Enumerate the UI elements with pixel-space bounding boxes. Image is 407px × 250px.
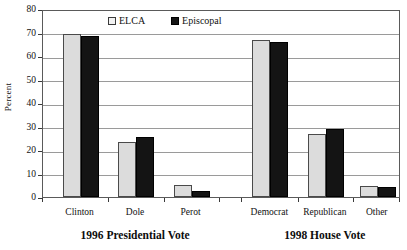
- bar-democrat-episcopal: [270, 42, 288, 197]
- group-title-2: 1998 House Vote: [235, 228, 407, 242]
- x-tick-mark: [298, 198, 299, 202]
- chart-legend: ELCAEpiscopal: [108, 14, 222, 27]
- bars-layer: [43, 11, 399, 197]
- x-tick-mark: [108, 198, 109, 202]
- bar-republican-elca: [308, 134, 326, 197]
- bar-perot-elca: [174, 185, 192, 197]
- y-tick-label: 0: [31, 193, 36, 203]
- x-label-other: Other: [337, 206, 407, 218]
- y-tick-label: 70: [27, 29, 37, 39]
- x-tick-mark: [219, 198, 220, 202]
- plot-area: [42, 10, 400, 198]
- bar-clinton-elca: [63, 34, 81, 197]
- legend-entry-episcopal[interactable]: Episcopal: [171, 16, 221, 26]
- bar-other-elca: [360, 186, 378, 197]
- dark-square-icon: [171, 17, 179, 25]
- bar-dole-episcopal: [136, 137, 154, 197]
- x-tick-mark: [164, 198, 165, 202]
- legend-label: Episcopal: [182, 16, 221, 26]
- bar-clinton-episcopal: [81, 36, 99, 197]
- y-tick-label: 30: [27, 123, 37, 133]
- x-tick-mark: [241, 198, 242, 202]
- y-tick-label: 60: [27, 52, 37, 62]
- y-tick-label: 40: [27, 99, 37, 109]
- light-square-icon: [108, 17, 116, 25]
- x-axis-labels: ClintonDolePerotDemocratRepublicanOther: [42, 206, 400, 222]
- x-axis-ticks: [42, 198, 400, 203]
- y-tick-label: 80: [27, 5, 37, 15]
- bar-democrat-elca: [252, 40, 270, 197]
- y-tick-label: 50: [27, 76, 37, 86]
- group-title-1: 1996 Presidential Vote: [45, 228, 225, 242]
- y-axis-ticks: 01020304050607080: [0, 0, 42, 250]
- group-titles: 1996 Presidential Vote1998 House Vote: [42, 228, 400, 246]
- x-tick-mark: [353, 198, 354, 202]
- legend-label: ELCA: [119, 16, 145, 26]
- y-tick-label: 20: [27, 146, 37, 156]
- bar-other-episcopal: [378, 187, 396, 197]
- bar-dole-elca: [118, 142, 136, 197]
- y-tick-label: 10: [27, 170, 37, 180]
- x-label-perot: Perot: [151, 206, 231, 218]
- bar-republican-episcopal: [326, 129, 344, 197]
- x-tick-mark: [399, 198, 400, 202]
- bar-perot-episcopal: [192, 191, 210, 197]
- bar-chart: Percent 01020304050607080 ClintonDolePer…: [0, 0, 407, 250]
- x-tick-mark: [42, 198, 43, 202]
- legend-entry-elca[interactable]: ELCA: [108, 16, 145, 26]
